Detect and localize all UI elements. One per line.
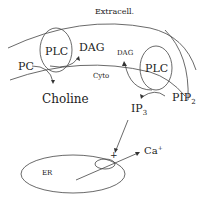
label-plc-right: PLC: [145, 63, 168, 74]
label-dag-right: DAG: [117, 50, 133, 57]
label-choline: Choline: [42, 93, 89, 105]
ip3-arrow: [116, 120, 128, 150]
pip2-to-ip3-path: [142, 92, 165, 97]
er-ellipse: [21, 155, 125, 193]
label-plc-left: PLC: [45, 46, 68, 57]
label-extracell: Extracell.: [95, 8, 134, 16]
label-er: ER: [42, 170, 52, 177]
diagram-drawing: [0, 0, 200, 203]
label-cyto: Cyto: [93, 73, 109, 80]
label-pip2: PIP2: [172, 92, 196, 106]
label-ca: Ca+: [144, 145, 163, 156]
diagram-canvas: Extracell. Cyto PLC PLC DAG DAG PC Choli…: [0, 0, 200, 203]
pc-to-choline-path: [32, 66, 53, 82]
ca-arrow: [76, 153, 138, 180]
label-dag-left: DAG: [79, 42, 105, 53]
label-pc: PC: [18, 61, 34, 72]
label-ip3: IP3: [131, 103, 147, 117]
label-plus: +: [110, 151, 118, 160]
